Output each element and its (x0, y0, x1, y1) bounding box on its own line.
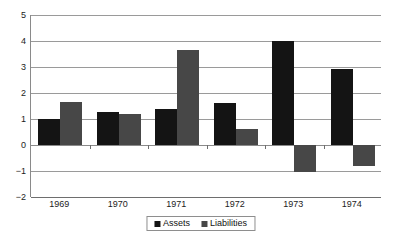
legend-swatch-icon (201, 221, 207, 227)
bar-assets-1970 (97, 112, 119, 145)
x-tick (207, 145, 208, 149)
x-tick-label-1972: 1972 (206, 199, 265, 210)
legend-item-assets: Assets (154, 219, 190, 228)
x-tick-label-1973: 1973 (264, 199, 323, 210)
x-tick (324, 145, 325, 149)
bars-layer (31, 15, 381, 197)
bar-liabilities-1973 (294, 145, 316, 172)
bar-assets-1972 (214, 103, 236, 145)
y-tick-label: 1 (2, 115, 26, 124)
x-tick-label-1974: 1974 (323, 199, 382, 210)
y-tick-label: −1 (2, 167, 26, 176)
bar-assets-1973 (272, 41, 294, 145)
y-tick-label: 5 (2, 11, 26, 20)
bar-liabilities-1972 (236, 129, 258, 145)
y-tick-label: 4 (2, 37, 26, 46)
bar-assets-1971 (155, 109, 177, 145)
bar-liabilities-1970 (119, 114, 141, 145)
x-tick (148, 145, 149, 149)
bar-liabilities-1974 (353, 145, 375, 166)
x-tick (265, 145, 266, 149)
gridline-neg2 (31, 197, 381, 198)
bar-chart: 543210−1−2 196919701971197219731974 Asse… (0, 0, 401, 246)
chart-legend: AssetsLiabilities (146, 216, 255, 231)
x-tick-label-1969: 1969 (30, 199, 89, 210)
bar-assets-1974 (331, 69, 353, 145)
y-axis: 543210−1−2 (0, 15, 26, 197)
y-tick-label: 2 (2, 89, 26, 98)
legend-swatch-icon (154, 221, 160, 227)
y-tick-label: 3 (2, 63, 26, 72)
x-tick (90, 145, 91, 149)
x-axis: 196919701971197219731974 (30, 199, 381, 215)
x-tick-label-1971: 1971 (147, 199, 206, 210)
y-tick-label: −2 (2, 193, 26, 202)
bar-liabilities-1971 (177, 50, 199, 145)
legend-label: Liabilities (210, 219, 247, 228)
legend-item-liabilities: Liabilities (201, 219, 247, 228)
bar-assets-1969 (38, 119, 60, 145)
y-tick-label: 0 (2, 141, 26, 150)
x-tick-label-1970: 1970 (89, 199, 148, 210)
legend-label: Assets (163, 219, 190, 228)
bar-liabilities-1969 (60, 102, 82, 145)
plot-area (30, 15, 381, 197)
